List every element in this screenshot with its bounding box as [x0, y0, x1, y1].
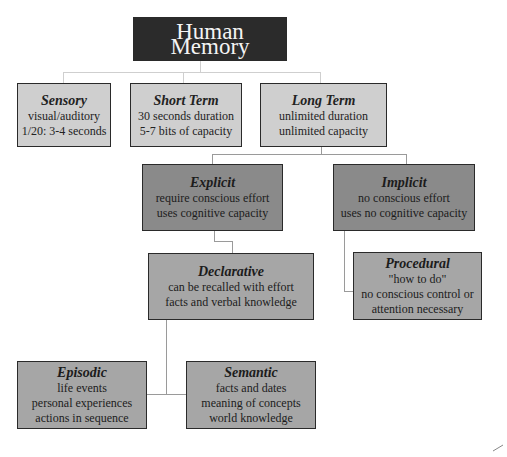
- box-episodic: Episodic life events personal experience…: [17, 361, 147, 429]
- box-long-term: Long Term unlimited duration unlimited c…: [260, 83, 387, 147]
- box-line: no conscious control or: [361, 287, 473, 302]
- connector-title-down: [200, 60, 201, 72]
- connector-to-short-term: [183, 72, 184, 83]
- box-line: can be recalled with effort: [168, 280, 294, 295]
- box-line: world knowledge: [209, 411, 293, 426]
- box-heading: Explicit: [190, 174, 235, 191]
- box-line: facts and dates: [216, 381, 287, 396]
- box-line: 5-7 bits of capacity: [140, 124, 232, 139]
- box-line: unlimited capacity: [279, 124, 368, 139]
- box-line: actions in sequence: [35, 411, 128, 426]
- box-heading: Declarative: [198, 263, 264, 280]
- connector-declarative-down: [166, 319, 167, 395]
- box-line: meaning of concepts: [201, 396, 300, 411]
- box-line: "how to do": [389, 272, 447, 287]
- box-semantic: Semantic facts and dates meaning of conc…: [186, 361, 316, 429]
- box-line: 1/20: 3-4 seconds: [22, 124, 107, 139]
- box-line: personal experiences: [32, 396, 132, 411]
- box-heading: Semantic: [224, 364, 278, 381]
- box-line: 30 seconds duration: [138, 109, 234, 124]
- connector-implicit-down: [344, 230, 345, 292]
- connector-level1-bar: [63, 72, 321, 73]
- box-line: uses cognitive capacity: [157, 206, 268, 221]
- box-line: attention necessary: [372, 302, 464, 317]
- box-explicit: Explicit require conscious effort uses c…: [142, 164, 283, 231]
- box-heading: Short Term: [153, 92, 218, 109]
- box-declarative: Declarative can be recalled with effort …: [148, 253, 314, 320]
- box-line: no conscious effort: [358, 191, 450, 206]
- diagram-title: Human Memory: [134, 24, 286, 54]
- connector-explicit-bend: [214, 241, 233, 242]
- box-short-term: Short Term 30 seconds duration 5-7 bits …: [130, 83, 242, 147]
- box-heading: Procedural: [385, 255, 450, 272]
- box-line: uses no cognitive capacity: [341, 206, 467, 221]
- box-sensory: Sensory visual/auditory 1/20: 3-4 second…: [17, 83, 111, 147]
- title-box-human-memory: Human Memory: [133, 17, 287, 61]
- box-line: facts and verbal knowledge: [165, 295, 297, 310]
- connector-level2-bar: [212, 154, 407, 155]
- connector-level4-bar: [146, 394, 188, 395]
- box-implicit: Implicit no conscious effort uses no cog…: [333, 164, 475, 231]
- box-heading: Episodic: [57, 364, 107, 381]
- connector-to-declarative: [232, 241, 233, 253]
- box-line: unlimited duration: [279, 109, 368, 124]
- stray-mark-decoration: [492, 444, 504, 452]
- box-line: life events: [57, 381, 107, 396]
- box-heading: Implicit: [381, 174, 426, 191]
- box-heading: Long Term: [292, 92, 356, 109]
- box-line: visual/auditory: [28, 109, 100, 124]
- connector-to-long-term: [320, 72, 321, 83]
- connector-to-sensory: [63, 72, 64, 83]
- box-heading: Sensory: [41, 92, 87, 109]
- box-line: require conscious effort: [156, 191, 270, 206]
- box-procedural: Procedural "how to do" no conscious cont…: [353, 252, 482, 320]
